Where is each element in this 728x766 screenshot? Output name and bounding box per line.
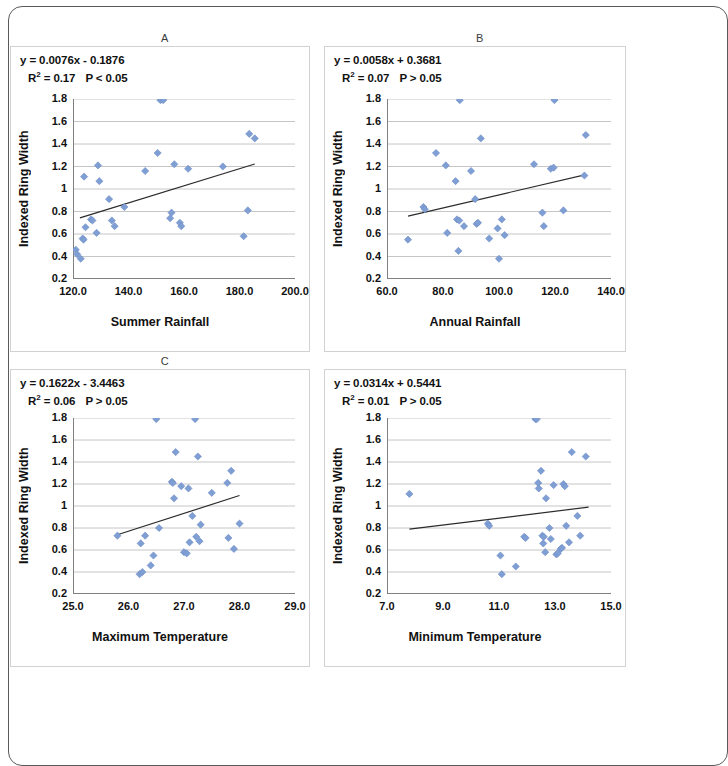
x-tick-label: 11.0 (474, 600, 524, 612)
y-tick-label: 0.8 (33, 521, 67, 533)
r2-p-annotation: R2 = 0.17P < 0.05 (28, 70, 128, 84)
y-tick-label: 0.2 (33, 587, 67, 599)
data-point (456, 99, 463, 104)
trendline (117, 496, 239, 535)
x-tick-label: 140.0 (586, 285, 636, 297)
y-tick-label: 0.6 (33, 227, 67, 239)
p-value-text: P > 0.05 (85, 395, 127, 407)
y-tick-label: 1.2 (33, 160, 67, 172)
panel-plot-area: y = 0.0314x + 0.5441R2 = 0.01P > 0.05Ind… (324, 369, 626, 667)
data-point (197, 521, 204, 528)
x-tick-label: 100.0 (474, 285, 524, 297)
panel-plot-area: y = 0.0076x - 0.1876R2 = 0.17P < 0.05Ind… (10, 46, 310, 352)
x-tick-label: 27.0 (159, 600, 209, 612)
x-tick-label: 15.0 (586, 600, 636, 612)
data-point (539, 209, 546, 216)
data-point (82, 224, 89, 231)
data-point (455, 247, 462, 254)
regression-equation: y = 0.0058x + 0.3681 (334, 54, 441, 66)
data-point (114, 532, 121, 539)
data-point (244, 207, 251, 214)
y-tick-label: 0.2 (347, 272, 381, 284)
data-point (501, 232, 508, 239)
regression-equation: y = 0.0076x - 0.1876 (20, 54, 124, 66)
data-point (94, 162, 101, 169)
x-tick-label: 80.0 (418, 285, 468, 297)
y-tick-label: 0.6 (347, 227, 381, 239)
data-point (186, 539, 193, 546)
y-axis-label: Indexed Ring Width (17, 414, 31, 598)
y-tick-label: 1.8 (347, 411, 381, 423)
data-point (565, 539, 572, 546)
data-point (498, 216, 505, 223)
y-tick-label: 1.6 (347, 433, 381, 445)
data-point (170, 495, 177, 502)
y-tick-label: 1 (33, 182, 67, 194)
y-axis-label: Indexed Ring Width (17, 95, 31, 283)
y-tick-label: 0.8 (33, 205, 67, 217)
y-tick-label: 0.2 (33, 272, 67, 284)
data-point (550, 482, 557, 489)
y-tick-label: 1.4 (33, 137, 67, 149)
data-point (189, 512, 196, 519)
y-tick-label: 0.4 (33, 565, 67, 577)
x-tick-label: 200.0 (270, 285, 320, 297)
y-tick-label: 0.2 (347, 587, 381, 599)
y-axis-label: Indexed Ring Width (331, 95, 345, 283)
data-point (560, 207, 567, 214)
y-tick-label: 1.8 (33, 411, 67, 423)
panel-label-b: B (324, 32, 636, 44)
x-tick-label: 7.0 (362, 600, 412, 612)
x-tick-label: 120.0 (530, 285, 580, 297)
data-point (460, 223, 467, 230)
data-point (551, 99, 558, 104)
scatter-plot (387, 418, 611, 594)
panel-plot-area: y = 0.0058x + 0.3681R2 = 0.07P > 0.05Ind… (324, 46, 626, 352)
data-point (224, 479, 231, 486)
data-point (467, 167, 474, 174)
x-tick-label: 29.0 (270, 600, 320, 612)
data-point (547, 535, 554, 542)
chart-panel-c: Cy = 0.1622x - 3.4463R2 = 0.06P > 0.05In… (10, 355, 320, 667)
scatter-plot (387, 99, 611, 279)
y-tick-label: 1.2 (33, 477, 67, 489)
data-point (208, 489, 215, 496)
data-point (432, 149, 439, 156)
y-tick-label: 1.2 (347, 160, 381, 172)
data-point (142, 167, 149, 174)
x-axis-label: Maximum Temperature (11, 630, 309, 644)
panel-label-a: A (10, 32, 320, 44)
data-point (153, 418, 160, 423)
y-tick-label: 1.6 (33, 433, 67, 445)
chart-panel-a: Ay = 0.0076x - 0.1876R2 = 0.17P < 0.05In… (10, 32, 320, 352)
x-tick-label: 25.0 (48, 600, 98, 612)
x-tick-label: 60.0 (362, 285, 412, 297)
data-point (568, 449, 575, 456)
data-point (406, 490, 413, 497)
data-point (236, 520, 243, 527)
data-point (142, 532, 149, 539)
y-tick-label: 1.4 (347, 137, 381, 149)
data-point (404, 236, 411, 243)
data-point (582, 131, 589, 138)
y-tick-label: 0.4 (33, 250, 67, 262)
data-point (486, 235, 493, 242)
scatter-plot (73, 418, 295, 594)
y-tick-label: 0.8 (347, 205, 381, 217)
chart-panel-b: By = 0.0058x + 0.3681R2 = 0.07P > 0.05In… (324, 32, 636, 352)
r-squared-value: R2 = 0.17 (28, 72, 75, 84)
x-tick-label: 9.0 (418, 600, 468, 612)
data-point (167, 215, 174, 222)
r2-p-annotation: R2 = 0.01P > 0.05 (342, 393, 442, 407)
trendline (80, 164, 255, 218)
data-point (81, 173, 88, 180)
data-point (546, 524, 553, 531)
x-tick-label: 28.0 (215, 600, 265, 612)
r2-p-annotation: R2 = 0.06P > 0.05 (28, 393, 128, 407)
chart-panel-d: y = 0.0314x + 0.5441R2 = 0.01P > 0.05Ind… (324, 355, 636, 667)
y-tick-label: 1.4 (33, 455, 67, 467)
data-point (185, 485, 192, 492)
r-squared-value: R2 = 0.01 (342, 395, 389, 407)
y-axis-label: Indexed Ring Width (331, 414, 345, 598)
x-tick-label: 140.0 (104, 285, 154, 297)
